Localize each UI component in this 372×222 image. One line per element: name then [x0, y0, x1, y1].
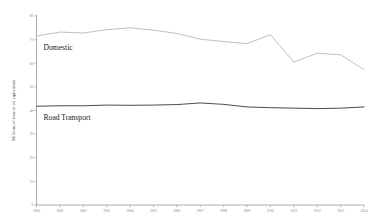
series-label-road-transport: Road Transport: [44, 113, 92, 122]
line-chart: 01020304050607080 2000200120022003200420…: [0, 0, 372, 222]
x-tick-label: 2003: [103, 209, 110, 213]
x-axis: 2000200120022003200420052006200720082009…: [33, 205, 368, 213]
x-tick-label: 2014: [361, 209, 368, 213]
x-tick-label: 2010: [267, 209, 274, 213]
y-axis: 01020304050607080: [30, 14, 37, 207]
y-tick-label: 70: [30, 38, 34, 42]
y-tick-label: 80: [30, 14, 34, 18]
x-tick-label: 2005: [150, 209, 157, 213]
x-tick-label: 2013: [337, 209, 344, 213]
x-tick-label: 2006: [173, 209, 180, 213]
y-tick-label: 20: [30, 156, 34, 160]
x-tick-label: 2002: [80, 209, 87, 213]
series-label-domestic: Domestic: [44, 43, 74, 52]
x-tick-label: 2008: [220, 209, 227, 213]
y-tick-label: 50: [30, 85, 34, 89]
y-tick-label: 60: [30, 62, 34, 66]
y-axis-title: Millions of tons of oil equivalent: [11, 79, 16, 140]
x-tick-label: 2007: [197, 209, 204, 213]
series-line-domestic: [37, 28, 365, 70]
chart-canvas: 01020304050607080 2000200120022003200420…: [0, 0, 372, 222]
y-tick-label: 10: [30, 180, 34, 184]
x-tick-label: 2004: [127, 209, 134, 213]
series-layer: [37, 28, 365, 109]
x-tick-label: 2009: [244, 209, 251, 213]
y-tick-label: 30: [30, 132, 34, 136]
x-tick-label: 2000: [33, 209, 40, 213]
y-tick-label: 0: [31, 203, 33, 207]
x-tick-label: 2012: [314, 209, 321, 213]
x-tick-label: 2011: [290, 209, 297, 213]
y-tick-label: 40: [30, 109, 34, 113]
x-tick-label: 2001: [57, 209, 64, 213]
series-line-road-transport: [37, 103, 365, 109]
series-inline-labels: DomesticRoad Transport: [44, 43, 92, 122]
